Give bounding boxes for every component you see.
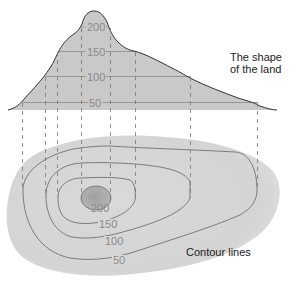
profile-label-200: 200 [87,21,105,33]
map-label-200: 200 [91,202,109,214]
profile-caption-line2: of the land [230,63,281,75]
profile-label-50: 50 [89,97,101,109]
profile-label-150: 150 [87,46,105,58]
profile-label-100: 100 [87,71,105,83]
map-label-150: 150 [99,218,117,230]
contour-diagram: 200 150 100 50 The shape of the land 200… [0,0,290,282]
map-label-50: 50 [113,254,125,266]
map-caption: Contour lines [186,246,251,258]
profile-caption-line1: The shape [230,51,282,63]
map-label-100: 100 [105,235,123,247]
